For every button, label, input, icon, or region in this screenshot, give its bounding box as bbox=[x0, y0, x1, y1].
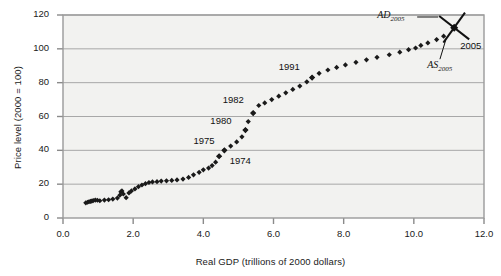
x-axis-title: Real GDP (trillions of 2000 dollars) bbox=[63, 256, 478, 267]
ad-label-text: AD bbox=[377, 9, 390, 20]
y-tick-label: 80 bbox=[9, 76, 49, 87]
as-label-text: AS bbox=[427, 59, 438, 70]
point-label-1991: 1991 bbox=[279, 61, 300, 72]
ad-label-subscript: 2005 bbox=[391, 15, 405, 23]
x-tick-label: 4.0 bbox=[183, 228, 223, 239]
y-tick-label: 0 bbox=[9, 211, 49, 222]
y-tick-label: 100 bbox=[9, 42, 49, 53]
x-tick-label: 6.0 bbox=[254, 228, 294, 239]
x-tick-marks bbox=[63, 218, 484, 224]
as-curve-label: AS2005 bbox=[427, 59, 452, 73]
x-tick-label: 0.0 bbox=[43, 228, 83, 239]
point-label-1974: 1974 bbox=[230, 155, 251, 166]
ad-curve-label: AD2005 bbox=[377, 9, 404, 23]
x-tick-label: 2.0 bbox=[113, 228, 153, 239]
point-label-1982: 1982 bbox=[223, 94, 244, 105]
chart-container: Price level (2000 = 100) Real GDP (trill… bbox=[0, 0, 501, 276]
as-label-subscript: 2005 bbox=[438, 65, 452, 73]
y-tick-label: 40 bbox=[9, 143, 49, 154]
y-tick-label: 20 bbox=[9, 177, 49, 188]
x-tick-label: 8.0 bbox=[324, 228, 364, 239]
y-tick-label: 60 bbox=[9, 110, 49, 121]
x-tick-label: 10.0 bbox=[394, 228, 434, 239]
point-label-1980: 1980 bbox=[210, 115, 231, 126]
year-2005-label: 2005 bbox=[460, 40, 481, 51]
x-tick-label: 12.0 bbox=[464, 228, 501, 239]
point-label-1975: 1975 bbox=[194, 135, 215, 146]
y-tick-label: 120 bbox=[9, 8, 49, 19]
y-tick-marks bbox=[57, 15, 63, 218]
